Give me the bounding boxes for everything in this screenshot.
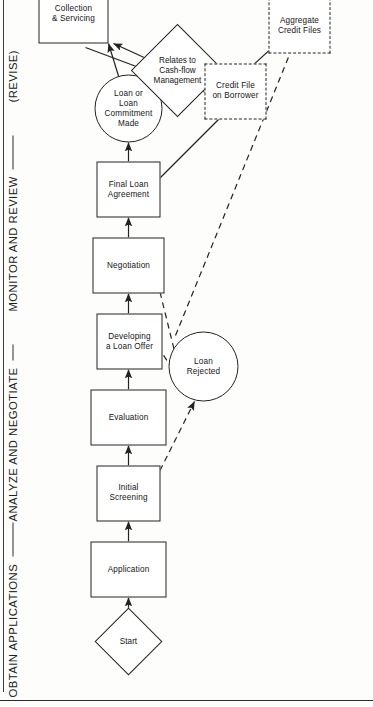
node-start-label: Start (119, 636, 136, 646)
node-final-loan-agreement-label: Final LoanAgreement (107, 179, 148, 199)
node-loan-rejected[interactable]: LoanRejected (168, 331, 238, 401)
phase-label-obtain-applications: OBTAIN APPLICATIONS (2, 522, 22, 697)
flowchart-stage: OBTAIN APPLICATIONS ANALYZE AND NEGOTIAT… (0, 0, 373, 707)
node-aggregate-credit-files[interactable]: AggregateCredit Files (268, 0, 330, 53)
phase-divider-rule (12, 522, 13, 556)
node-application-label: Application (107, 564, 149, 574)
phase-label-revise: (REVISE) (2, 49, 22, 102)
node-credit-file-on-borrower-label: Credit Fileon Borrower (212, 81, 258, 101)
figure-page: OBTAIN APPLICATIONS ANALYZE AND NEGOTIAT… (0, 0, 373, 707)
phase-analyze-text: ANALYZE AND NEGOTIATE (6, 367, 18, 521)
node-initial-screening[interactable]: InitialScreening (96, 465, 160, 521)
node-final-loan-agreement[interactable]: Final LoanAgreement (96, 161, 160, 217)
phase-divider-rule (12, 344, 13, 360)
node-evaluation[interactable]: Evaluation (90, 389, 166, 445)
node-negotiation[interactable]: Negotiation (92, 237, 164, 293)
node-application[interactable]: Application (90, 541, 166, 597)
node-collection-servicing[interactable]: Collection& Servicing (38, 0, 108, 43)
start-label-wrap: Start (104, 617, 152, 665)
phase-divider-rule (12, 135, 13, 169)
node-credit-file-on-borrower[interactable]: Credit Fileon Borrower (204, 63, 266, 119)
phase-label-band: OBTAIN APPLICATIONS ANALYZE AND NEGOTIAT… (0, 0, 30, 707)
phase-obtain-text: OBTAIN APPLICATIONS (6, 563, 18, 697)
phase-label-monitor-review: MONITOR AND REVIEW (2, 135, 22, 311)
node-developing-loan-offer[interactable]: Developinga Loan Offer (96, 313, 162, 369)
phase-revise-text: (REVISE) (6, 49, 18, 102)
node-start[interactable]: Start (104, 617, 152, 665)
node-initial-screening-label: InitialScreening (109, 483, 147, 503)
cashflow-label-wrap: Relates toCash-flowManagement (144, 37, 210, 103)
node-relates-cashflow-management-label: Relates toCash-flowManagement (153, 55, 201, 85)
node-relates-cashflow-management[interactable]: Relates toCash-flowManagement (144, 37, 210, 103)
phase-label-analyze-negotiate: ANALYZE AND NEGOTIATE (2, 344, 22, 521)
node-aggregate-credit-files-label: AggregateCredit Files (277, 15, 320, 35)
phase-monitor-text: MONITOR AND REVIEW (6, 176, 18, 311)
node-evaluation-label: Evaluation (108, 412, 148, 422)
node-negotiation-label: Negotiation (106, 260, 149, 270)
node-loan-rejected-label: LoanRejected (186, 356, 220, 376)
node-collection-servicing-label: Collection& Servicing (51, 3, 94, 23)
node-developing-loan-offer-label: Developinga Loan Offer (105, 331, 152, 351)
